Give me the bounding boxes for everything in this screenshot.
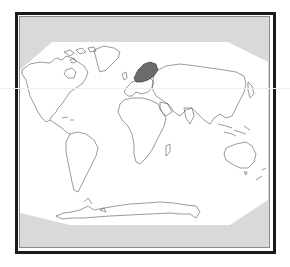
scan-artifact-line (0, 88, 290, 89)
map-figure (0, 0, 290, 267)
world-map (0, 0, 290, 267)
